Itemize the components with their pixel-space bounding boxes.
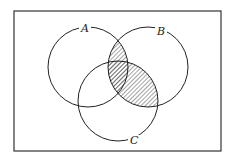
set-a-label: A [80,22,89,35]
set-c-label: C [130,134,139,147]
shaded-region [48,27,158,141]
venn-diagram: A B C [0,0,231,159]
set-b-label: B [156,25,165,38]
